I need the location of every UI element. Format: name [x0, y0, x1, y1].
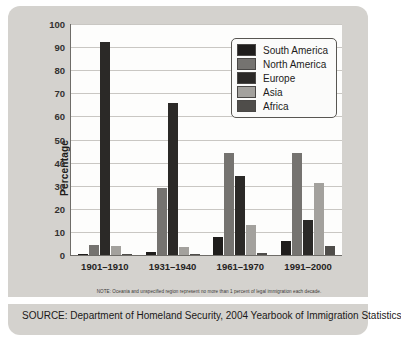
bar[interactable]	[146, 252, 156, 255]
y-tick-0: 0	[60, 250, 65, 261]
legend-label: Africa	[263, 101, 289, 112]
y-tick-30: 30	[54, 180, 65, 191]
legend-label: Asia	[263, 87, 282, 98]
y-tick-40: 40	[54, 157, 65, 168]
legend-item[interactable]: South America	[237, 43, 328, 57]
y-tick-100: 100	[49, 19, 65, 30]
bar[interactable]	[292, 153, 302, 255]
y-tick-70: 70	[54, 88, 65, 99]
legend-swatch-icon	[237, 86, 256, 98]
bar[interactable]	[325, 246, 335, 255]
bar[interactable]	[257, 253, 267, 255]
plot-area: 1009080706050403020100 1901–19101931–194…	[70, 24, 342, 256]
bar[interactable]	[303, 220, 313, 255]
bar[interactable]	[246, 225, 256, 255]
y-tick-20: 20	[54, 203, 65, 214]
bar[interactable]	[314, 183, 324, 255]
legend-item[interactable]: Africa	[237, 99, 328, 113]
separator	[8, 297, 368, 304]
bar[interactable]	[179, 247, 189, 255]
y-tick-10: 10	[54, 226, 65, 237]
y-tick-50: 50	[54, 134, 65, 145]
legend-swatch-icon	[237, 44, 256, 56]
y-tick-60: 60	[54, 111, 65, 122]
bar[interactable]	[78, 254, 88, 255]
bar[interactable]	[190, 254, 200, 255]
bar[interactable]	[281, 241, 291, 255]
legend-item[interactable]: North America	[237, 57, 328, 71]
bar[interactable]	[235, 176, 245, 255]
legend-swatch-icon	[237, 58, 256, 70]
legend-swatch-icon	[237, 100, 256, 112]
bar[interactable]	[168, 103, 178, 255]
bar[interactable]	[213, 237, 223, 255]
x-tick-label: 1931–1940	[149, 261, 197, 272]
legend-label: Europe	[263, 73, 295, 84]
x-tick-label: 1961–1970	[217, 261, 265, 272]
y-tick-80: 80	[54, 65, 65, 76]
legend: South AmericaNorth AmericaEuropeAsiaAfri…	[231, 38, 337, 118]
legend-swatch-icon	[237, 72, 256, 84]
bar-group: 1901–1910	[71, 24, 139, 255]
plot-area-wrapper: Percentage 1009080706050403020100 1901–1…	[70, 24, 342, 256]
legend-label: South America	[263, 45, 328, 56]
chart-note: NOTE: Oceania and unspecified region rep…	[70, 289, 348, 294]
legend-label: North America	[263, 59, 326, 70]
chart-panel: Percentage 1009080706050403020100 1901–1…	[8, 6, 368, 335]
bar[interactable]	[157, 188, 167, 255]
source-line: SOURCE: Department of Homeland Security,…	[22, 310, 401, 321]
bar[interactable]	[224, 153, 234, 255]
x-tick-label: 1901–1910	[81, 261, 129, 272]
bar[interactable]	[111, 246, 121, 255]
bar[interactable]	[89, 245, 99, 255]
bar[interactable]	[122, 254, 132, 255]
bar-chart: Percentage 1009080706050403020100 1901–1…	[22, 12, 356, 302]
y-tick-90: 90	[54, 42, 65, 53]
x-tick-label: 1991–2000	[284, 261, 332, 272]
legend-item[interactable]: Asia	[237, 85, 328, 99]
legend-item[interactable]: Europe	[237, 71, 328, 85]
bar[interactable]	[100, 42, 110, 255]
bar-group: 1931–1940	[139, 24, 207, 255]
